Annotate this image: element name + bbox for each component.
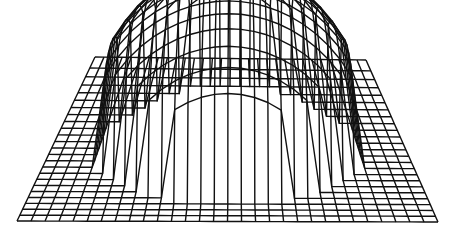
grid-column-line [366, 60, 438, 222]
grid-column-line [249, 0, 256, 222]
wireframe-lines [17, 0, 438, 222]
grid-column-line [157, 0, 185, 221]
grid-column-line [59, 57, 122, 221]
grid-column-line [240, 0, 242, 222]
grid-column-line [258, 0, 270, 222]
wireframe-surface [0, 0, 452, 237]
grid-column-line [199, 0, 212, 221]
surface-plot [0, 0, 452, 237]
grid-column-line [214, 0, 222, 222]
grid-column-line [228, 0, 231, 222]
grid-column-line [171, 0, 194, 221]
grid-column-line [31, 57, 104, 221]
grid-column-line [294, 0, 326, 222]
